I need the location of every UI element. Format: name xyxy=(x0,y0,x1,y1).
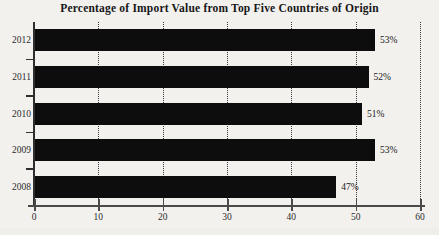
x-axis-tick-label: 40 xyxy=(271,212,311,222)
gridline xyxy=(420,22,421,205)
x-axis-tick-label: 30 xyxy=(207,212,247,222)
bar-chart: Percentage of Import Value from Top Five… xyxy=(0,0,439,235)
bar-value-label: 52% xyxy=(374,66,391,88)
y-axis-category-label: 2010 xyxy=(3,103,31,125)
x-axis-tick-label: 50 xyxy=(336,212,376,222)
y-axis-category-label: 2009 xyxy=(3,139,31,161)
bar-value-label: 51% xyxy=(367,103,384,125)
bar xyxy=(34,176,336,198)
bar xyxy=(34,29,375,51)
x-axis-tick-label: 60 xyxy=(400,212,439,222)
x-axis-tick xyxy=(420,199,422,211)
y-axis-category-label: 2011 xyxy=(3,66,31,88)
x-axis-tick xyxy=(227,199,229,211)
x-axis-tick-label: 10 xyxy=(78,212,118,222)
bar xyxy=(34,103,362,125)
page-edge-band xyxy=(0,228,439,235)
bar xyxy=(34,139,375,161)
y-axis-category-label: 2012 xyxy=(3,29,31,51)
bar-value-label: 53% xyxy=(380,139,397,161)
bar-value-label: 47% xyxy=(341,176,358,198)
x-axis-tick xyxy=(291,199,293,211)
x-axis-tick xyxy=(356,199,358,211)
chart-title: Percentage of Import Value from Top Five… xyxy=(0,2,439,14)
x-axis-tick-label: 0 xyxy=(14,212,54,222)
y-axis-line xyxy=(33,22,35,206)
x-axis-tick xyxy=(163,199,165,211)
bar-value-label: 53% xyxy=(380,29,397,51)
y-axis-category-labels: 20122011201020092008 xyxy=(0,22,31,205)
plot-area: 53%52%51%53%47% xyxy=(34,22,420,205)
x-axis-tick-label: 20 xyxy=(143,212,183,222)
x-axis-tick xyxy=(34,199,36,211)
bar xyxy=(34,66,369,88)
x-axis-tick xyxy=(98,199,100,211)
y-axis-category-label: 2008 xyxy=(3,176,31,198)
